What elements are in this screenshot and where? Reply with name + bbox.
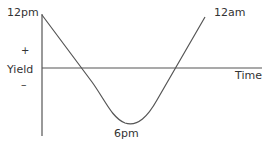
- yield-curve: [42, 15, 205, 124]
- positive-sign-label: +: [21, 46, 29, 56]
- start-time-label: 12pm: [7, 7, 39, 18]
- yield-time-diagram: 12pm 12am + Yield – Time 6pm: [0, 0, 268, 143]
- y-axis-label: Yield: [7, 64, 33, 75]
- x-axis-label: Time: [235, 70, 262, 81]
- negative-sign-label: –: [21, 79, 27, 90]
- diagram-svg: [0, 0, 268, 143]
- end-time-label: 12am: [214, 7, 245, 18]
- minimum-time-label: 6pm: [114, 128, 139, 139]
